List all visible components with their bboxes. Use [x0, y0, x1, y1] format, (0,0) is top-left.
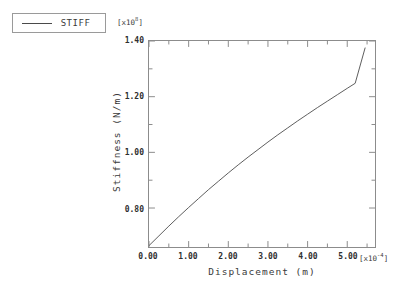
x-tick-label: 3.00 [251, 252, 285, 261]
y-exponent-prefix: [x10 [117, 18, 135, 27]
y-axis-title-container: Stiffness (N/m) [92, 40, 116, 248]
legend-line-swatch [22, 23, 52, 24]
x-exponent-value: -4 [377, 252, 384, 258]
x-tick-label: 5.00 [331, 252, 365, 261]
x-tick-label: 2.00 [211, 252, 245, 261]
plot-frame [148, 40, 376, 248]
data-series-group [149, 48, 365, 246]
x-tick-label: 0.00 [131, 252, 165, 261]
y-tick-label: 0.80 [116, 204, 144, 213]
series-line-stiff [149, 48, 365, 246]
y-exponent-suffix: ] [138, 18, 143, 27]
legend-box: STIFF [12, 13, 106, 33]
y-tick-label: 1.40 [116, 36, 144, 45]
x-axis-title: Displacement (m) [148, 266, 376, 277]
y-axis-title: Stiffness (N/m) [111, 82, 122, 202]
x-tick-label: 1.00 [171, 252, 205, 261]
y-axis-exponent: [x108] [117, 16, 143, 27]
x-tick-label: 4.00 [291, 252, 325, 261]
plot-canvas [149, 41, 375, 247]
axis-ticks [149, 41, 375, 247]
x-axis-tick-labels: 0.001.002.003.004.005.00 [148, 252, 376, 264]
x-exponent-suffix: ] [384, 254, 389, 263]
legend-entry-label: STIFF [52, 18, 105, 28]
